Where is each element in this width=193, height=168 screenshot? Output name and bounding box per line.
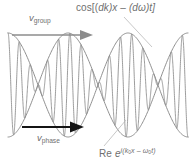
wave-packet-figure: vgroup vphase cos[(dk)x – (dω)t] Re ei(k… (0, 0, 193, 168)
carrier-formula-x: x – (131, 147, 143, 154)
carrier-leader-line (104, 120, 126, 146)
envelope-formula-prefix: cos[( (76, 2, 98, 13)
envelope-leader-line (124, 17, 152, 47)
envelope-lower-path (8, 33, 188, 137)
carrier-formula-label: Re ei(k0x – ω0t) (99, 147, 156, 159)
v-phase-label: vphase (37, 133, 60, 145)
envelope-formula-suffix: )t] (146, 2, 155, 13)
wave-drawing-canvas (0, 0, 193, 168)
carrier-formula-t: t) (151, 147, 155, 154)
v-group-label: vgroup (29, 13, 51, 25)
v-group-subscript: group (34, 17, 51, 24)
carrier-formula-re: Re (99, 148, 112, 159)
envelope-formula-domega: dω (132, 2, 146, 13)
envelope-formula-label: cos[(dk)x – (dω)t] (76, 3, 155, 13)
envelope-formula-mid: )x – ( (109, 2, 132, 13)
v-phase-subscript: phase (42, 137, 60, 144)
envelope-formula-dk: dk (98, 2, 109, 13)
v-group-arrow (12, 30, 93, 40)
